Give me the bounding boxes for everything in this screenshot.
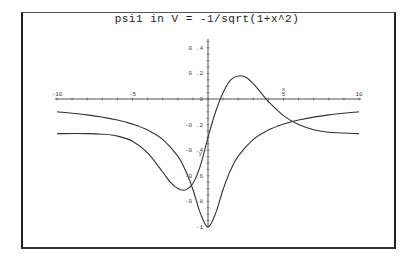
plot-area: -10-55100 .40 .20-0 .2-0 .4-0 .6-0 .8-1x… bbox=[0, 0, 414, 261]
y-tick-label: 0 bbox=[199, 96, 203, 103]
x-tick-label: -5 bbox=[129, 91, 137, 98]
y-tick-label: -1 bbox=[196, 224, 204, 231]
y-tick-label: -0 .2 bbox=[185, 122, 203, 129]
x-tick-label: 10 bbox=[355, 91, 363, 98]
y-tick-label: 0 .2 bbox=[189, 70, 204, 77]
x-axis-label: x bbox=[282, 86, 286, 93]
y-tick-label: -0 .8 bbox=[185, 198, 203, 205]
x-tick-label: -10 bbox=[52, 91, 63, 98]
y-axis-label: y bbox=[198, 150, 202, 157]
y-tick-label: 0 .4 bbox=[189, 45, 204, 52]
axes: -10-55100 .40 .20-0 .2-0 .4-0 .6-0 .8-1x… bbox=[52, 39, 363, 231]
